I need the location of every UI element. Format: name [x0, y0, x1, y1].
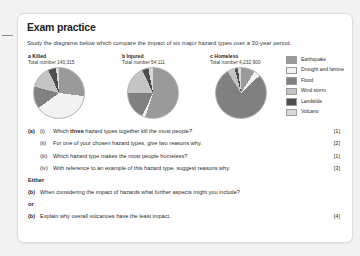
question-b-second: (b) Explain why overall volcanoes have t…	[28, 213, 340, 220]
legend-item-flood: Flood	[286, 76, 353, 86]
pie-chart-killed	[33, 67, 85, 119]
legend-item-wind-storm: Wind storm	[286, 87, 353, 97]
either-label: Either	[28, 177, 340, 184]
margin-dash-mark	[2, 35, 13, 36]
legend-label-volcano: Volcano	[301, 110, 318, 115]
legend-item-volcano: Volcano	[286, 108, 353, 118]
legend-label-landslide: Landslide	[301, 100, 322, 105]
chart-subtitle-killed: Total number 140,315	[28, 60, 120, 66]
legend-swatch-drought-and-famine	[286, 67, 297, 75]
legend-label-wind-storm: Wind storm	[301, 89, 326, 94]
legend-item-earthquake: Earthquake	[286, 55, 353, 65]
question-a-ii: (ii) For one of your chosen hazard types…	[28, 140, 340, 147]
question-a-iv: (iv) With reference to an example of thi…	[28, 165, 340, 172]
exam-practice-page: Exam practice Study the diagrams below w…	[0, 0, 360, 256]
legend-label-flood: Flood	[301, 79, 313, 84]
intro-text: Study the diagrams below which compare t…	[27, 40, 343, 48]
chart-block-injured: b Injured Total number 54,111	[122, 53, 214, 118]
exam-practice-card: Exam practice Study the diagrams below w…	[17, 13, 353, 243]
question-text-a-iv: With reference to an example of this haz…	[53, 165, 324, 172]
chart-subtitle-injured: Total number 54,111	[122, 60, 214, 66]
questions-list: (a) (i) Which three hazard types togethe…	[27, 128, 343, 220]
legend-label-earthquake: Earthquake	[301, 58, 326, 63]
question-part-letter-b-first: (b)	[28, 189, 40, 196]
legend-swatch-earthquake	[286, 56, 297, 64]
question-part-letter-a: (a)	[28, 128, 40, 135]
question-marks-b-second: [4]	[324, 213, 340, 220]
legend-item-drought-and-famine: Drought and famine	[286, 66, 353, 76]
question-marks-a-ii: [2]	[324, 140, 340, 147]
card-content: Exam practice Study the diagrams below w…	[18, 14, 352, 220]
question-text-b-second: Explain why overall volcanoes have the l…	[40, 213, 324, 220]
legend-label-drought-and-famine: Drought and famine	[301, 68, 344, 73]
question-a-i-after: hazard types together kill the most peop…	[84, 128, 192, 134]
question-roman-iii: (iii)	[40, 153, 53, 160]
question-part-letter-b-second: (b)	[28, 213, 40, 220]
question-text-a-iii: Which hazard type makes the most people …	[53, 153, 324, 160]
question-a-i-bold: three	[70, 128, 84, 134]
question-a-i: (a) (i) Which three hazard types togethe…	[28, 128, 340, 135]
question-roman-i: (i)	[40, 128, 53, 135]
question-marks-a-iii: [1]	[324, 153, 340, 160]
pie-chart-homeless	[215, 67, 267, 119]
question-a-iii: (iii) Which hazard type makes the most p…	[28, 153, 340, 160]
chart-block-killed: a Killed Total number 140,315	[28, 53, 120, 118]
question-a-i-before: Which	[53, 128, 70, 134]
question-marks-a-i: [1]	[324, 128, 340, 135]
page-title: Exam practice	[27, 22, 343, 34]
legend-item-landslide: Landslide	[286, 97, 353, 107]
chart-legend: Earthquake Drought and famine Flood Wind…	[286, 55, 353, 118]
legend-swatch-volcano	[286, 109, 297, 117]
question-roman-iv: (iv)	[40, 165, 53, 172]
question-text-a-ii: For one of your chosen hazard types, giv…	[53, 140, 324, 147]
question-marks-a-iv: [3]	[324, 165, 340, 172]
legend-swatch-landslide	[286, 98, 297, 106]
question-text-b-first: When considering the impact of hazards w…	[40, 189, 324, 196]
legend-swatch-wind-storm	[286, 88, 297, 96]
or-label: or	[28, 201, 340, 208]
question-b-first: (b) When considering the impact of hazar…	[28, 189, 340, 196]
legend-swatch-flood	[286, 77, 297, 85]
question-roman-ii: (ii)	[40, 140, 53, 147]
question-text-a-i: Which three hazard types together kill t…	[53, 128, 324, 135]
pie-chart-injured	[127, 67, 179, 119]
charts-row: a Killed Total number 140,315 b Injured …	[27, 53, 343, 125]
